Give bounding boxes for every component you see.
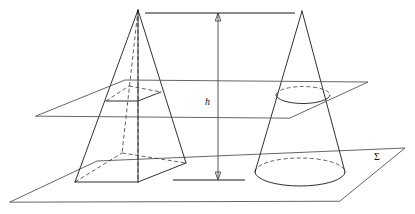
cutting-plane [36, 80, 368, 118]
height-label: h [205, 96, 210, 107]
cone-cross-section-front-arc [276, 95, 330, 104]
pyramid-right-slant-edge [138, 10, 186, 163]
cone-right-slant [302, 11, 345, 172]
pyramid-cross-front-right-edge [138, 92, 161, 101]
geometry-figure: h Σ [0, 0, 415, 214]
sigma-base-plane-group [10, 148, 405, 202]
pyramid-hidden-lines [75, 10, 186, 182]
pyramid-base-front-right-edge [138, 163, 186, 182]
cone-base-back-arc [255, 158, 345, 172]
cutting-plane-group [36, 80, 368, 118]
pyramid-cross-back-right-edge [129, 86, 161, 92]
sigma-base-plane [10, 148, 405, 202]
pyramid-base-back-left-edge [75, 153, 122, 182]
cone-cross-section-back-arc [276, 87, 330, 96]
sigma-plane-label: Σ [374, 151, 380, 162]
cone-base-front-arc [255, 172, 345, 186]
figure-canvas: h Σ [0, 0, 415, 214]
pyramid-group [75, 10, 186, 182]
height-dimension-group: h [145, 13, 295, 180]
cone-left-slant [255, 11, 302, 172]
